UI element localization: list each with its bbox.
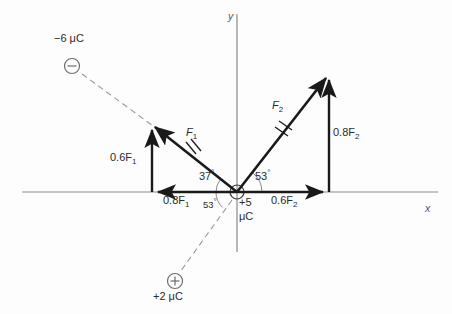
force-2-y-component-label: 0.8F2: [333, 126, 359, 141]
negative-charge-label: −6 μC: [54, 32, 84, 45]
angle-53-below-value: 53: [203, 199, 214, 210]
positive-charge-label: +2 μC: [153, 290, 183, 303]
force-2-y-component-subscript: 2: [355, 132, 359, 141]
center-charge-label-line2: μC: [239, 210, 253, 223]
angle-37-value: 37: [199, 170, 211, 182]
physics-force-diagram: x y −6 μC +2 μC +5 μC F1 0.8F1 0.6F1 F2 …: [0, 0, 452, 314]
force-1-x-component-label: 0.8F1: [163, 194, 189, 209]
y-axis-label: y: [228, 10, 233, 22]
diagram-canvas: [0, 0, 452, 314]
angle-53-right-unit: °: [267, 168, 270, 177]
force-1-x-component-subscript: 1: [185, 200, 189, 209]
force-1-label-subscript: 1: [193, 132, 197, 141]
angle-arc-37: [216, 179, 220, 192]
angle-53-right-value: 53: [255, 170, 267, 182]
force-1-y-component-subscript: 1: [132, 157, 136, 166]
angle-53-below-label: 53°: [203, 197, 217, 211]
dashed-line-to-negative-charge: [82, 74, 160, 131]
force-1-label: F1: [186, 126, 197, 141]
force-2-label-text: F: [272, 99, 279, 111]
force-2-x-component-subscript: 2: [293, 200, 297, 209]
force-1-x-component-text: 0.8F: [163, 194, 185, 206]
force-2-y-component-text: 0.8F: [333, 126, 355, 138]
force-2-label: F2: [272, 99, 283, 114]
angle-37-label: 37°: [199, 168, 214, 182]
angle-37-unit: °: [211, 168, 214, 177]
angle-arc-53-below: [216, 192, 223, 207]
vector-force-2: [237, 78, 326, 192]
angle-53-right-label: 53°: [255, 168, 270, 182]
angle-53-below-unit: °: [214, 197, 217, 206]
force-2-x-component-text: 0.6F: [271, 194, 293, 206]
force-1-y-component-text: 0.6F: [110, 151, 132, 163]
force-1-y-component-label: 0.6F1: [110, 151, 136, 166]
center-charge-label-line1: +5: [239, 196, 252, 209]
force-1-label-text: F: [186, 126, 193, 138]
x-axis-label: x: [425, 202, 430, 214]
force-2-x-component-label: 0.6F2: [271, 194, 297, 209]
force-2-label-subscript: 2: [279, 105, 283, 114]
